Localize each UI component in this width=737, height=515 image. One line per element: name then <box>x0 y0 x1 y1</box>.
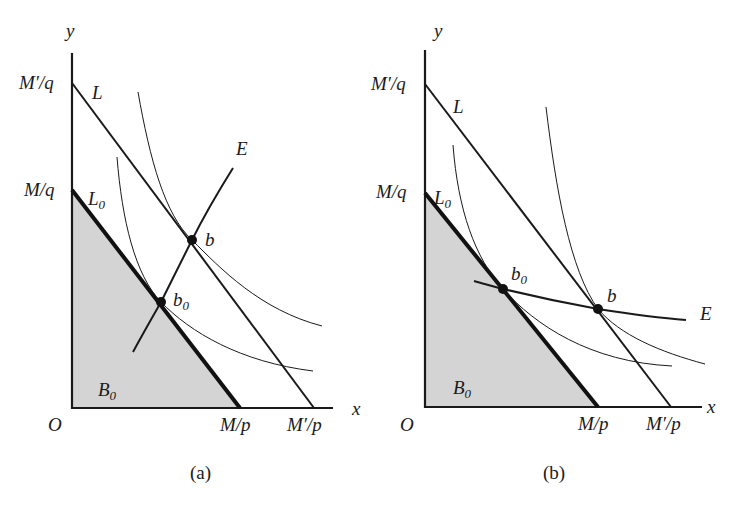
x-intercept-old-label: M/p <box>577 413 609 434</box>
y-axis-label: y <box>64 20 75 41</box>
point-b <box>593 304 603 314</box>
x-intercept-new-label: M′/p <box>286 414 322 435</box>
y-intercept-new-label: M′/q <box>18 72 54 93</box>
y-axis-label: y <box>432 20 443 41</box>
y-intercept-new-label: M′/q <box>370 73 406 94</box>
point-b-label: b <box>205 229 215 250</box>
budget-line-l0-label: L0 <box>87 188 106 212</box>
panel-b: y x O M′/q M/q M/p M′/p L L0 E b0 b B0 (… <box>370 20 716 484</box>
expansion-path-e <box>133 168 233 352</box>
budget-line-l-label: L <box>91 82 103 103</box>
x-intercept-old-label: M/p <box>219 414 251 435</box>
panel-b-caption: (b) <box>543 462 565 484</box>
expansion-path-e-label: E <box>699 303 712 324</box>
y-intercept-old-label: M/q <box>23 179 55 200</box>
expansion-path-e-label: E <box>235 138 248 159</box>
x-axis-label: x <box>706 396 716 417</box>
budget-line-l0-label: L0 <box>433 187 452 211</box>
point-b <box>187 235 197 245</box>
origin-label: O <box>400 414 414 435</box>
x-intercept-new-label: M′/p <box>645 413 681 434</box>
origin-label: O <box>48 414 62 435</box>
point-b0-label: b0 <box>511 263 528 287</box>
panel-a-caption: (a) <box>190 462 211 484</box>
point-b0 <box>156 297 166 307</box>
point-b0-label: b0 <box>173 289 190 313</box>
y-intercept-old-label: M/q <box>375 181 407 202</box>
indifference-curve-high <box>546 107 705 364</box>
point-b0 <box>498 284 508 294</box>
budget-line-l-label: L <box>452 96 464 117</box>
point-b-label: b <box>607 285 617 306</box>
x-axis-label: x <box>351 398 361 419</box>
panel-a: y x O M′/q M/q M/p M′/p L L0 E b b0 B0 (… <box>18 20 361 484</box>
income-expansion-diagram: y x O M′/q M/q M/p M′/p L L0 E b b0 B0 (… <box>0 0 737 515</box>
